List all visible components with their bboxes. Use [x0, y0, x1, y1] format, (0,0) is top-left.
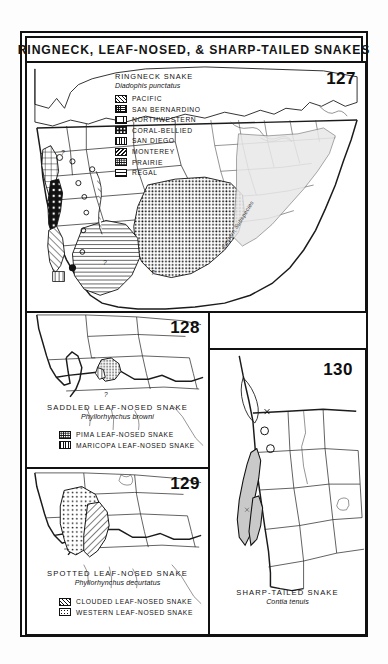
caption-sharp-tailed: SHARP-TAILED SNAKE Contia tenuis [210, 588, 365, 606]
map-panel-spotted-leaf-nosed[interactable]: 129 SPOTTED LEAF-NOSED SNAKE Phyllorhync… [25, 467, 210, 636]
swatch-pima [59, 431, 71, 439]
swatch-coral-bellied [115, 126, 127, 134]
legend-row: SAN BERNARDINO [115, 105, 201, 113]
map-panel-ringneck[interactable]: 127 RINGNECK SNAKE Diadophis punctatus P… [25, 61, 367, 313]
legend-label: WESTERN LEAF-NOSED SNAKE [76, 609, 193, 616]
annotation-query: ? [151, 269, 155, 276]
map-number-129: 129 [170, 474, 200, 494]
legend-label: MARICOPA LEAF-NOSED SNAKE [76, 442, 195, 449]
legend-label: MONTEREY [132, 148, 175, 155]
caption-scientific-name: Contia tenuis [210, 598, 365, 606]
legend-row: CLOUDED LEAF-NOSED SNAKE [59, 598, 193, 606]
legend-row: MARICOPA LEAF-NOSED SNAKE [59, 441, 195, 449]
legend-saddled-leaf-nosed: PIMA LEAF-NOSED SNAKE MARICOPA LEAF-NOSE… [59, 428, 195, 449]
caption-common-name: SHARP-TAILED SNAKE [210, 588, 365, 597]
legend-row: REGAL [115, 169, 201, 177]
legend-row: MONTEREY [115, 148, 201, 156]
legend-row: WESTERN LEAF-NOSED SNAKE [59, 608, 193, 616]
swatch-pacific [115, 95, 127, 103]
swatch-prairie [115, 158, 127, 166]
legend-label: CLOUDED LEAF-NOSED SNAKE [76, 598, 192, 605]
annotation-query: ? [61, 149, 65, 156]
caption-saddled-leaf-nosed: SADDLED LEAF-NOSED SNAKE Phyllorhynchus … [27, 403, 208, 421]
swatch-clouded [59, 598, 71, 606]
caption-scientific-name: Phyllorhynchus browni [27, 413, 208, 421]
legend-row: SAN DIEGO [115, 137, 201, 145]
map-number-127: 127 [326, 69, 356, 89]
map-panel-sharp-tailed[interactable]: 130 SHARP-TAILED SNAKE Contia tenuis [208, 348, 367, 636]
map-number-128: 128 [170, 318, 200, 338]
legend-ringneck: RINGNECK SNAKE Diadophis punctatus PACIF… [115, 72, 201, 177]
legend-label: PACIFIC [132, 95, 162, 102]
legend-row: PACIFIC [115, 95, 201, 103]
swatch-monterey [115, 148, 127, 156]
caption-common-name: SADDLED LEAF-NOSED SNAKE [27, 403, 208, 412]
annotation-query: ? [104, 391, 108, 398]
legend-scientific-name: Diadophis punctatus [115, 82, 201, 89]
legend-common-name: RINGNECK SNAKE [115, 72, 201, 81]
plate-inner: RINGNECK, LEAF-NOSED, & SHARP-TAILED SNA… [25, 36, 363, 632]
map-plate: RINGNECK, LEAF-NOSED, & SHARP-TAILED SNA… [20, 31, 368, 637]
legend-spotted-leaf-nosed: CLOUDED LEAF-NOSED SNAKE WESTERN LEAF-NO… [59, 595, 193, 616]
map-number-130: 130 [323, 360, 353, 380]
legend-label: REGAL [132, 169, 158, 176]
plate-title-bar: RINGNECK, LEAF-NOSED, & SHARP-TAILED SNA… [25, 36, 363, 63]
swatch-regal [115, 169, 127, 177]
caption-common-name: SPOTTED LEAF-NOSED SNAKE [27, 569, 208, 578]
legend-label: SAN DIEGO [132, 137, 175, 144]
map-panel-saddled-leaf-nosed[interactable]: 128 SADDLED LEAF-NOSED SNAKE Phyllorhync… [25, 311, 210, 469]
swatch-san-bernardino [115, 105, 127, 113]
caption-spotted-leaf-nosed: SPOTTED LEAF-NOSED SNAKE Phyllorhynchus … [27, 569, 208, 587]
caption-scientific-name: Phyllorhynchus decurtatus [27, 579, 208, 587]
legend-label: PIMA LEAF-NOSED SNAKE [76, 431, 174, 438]
swatch-san-diego [115, 137, 127, 145]
swatch-western [59, 608, 71, 616]
legend-row: NORTHWESTERN [115, 116, 201, 124]
swatch-maricopa [59, 441, 71, 449]
page-title: RINGNECK, LEAF-NOSED, & SHARP-TAILED SNA… [18, 43, 371, 57]
annotation-query: ? [103, 259, 107, 266]
legend-row: PRAIRIE [115, 158, 201, 166]
legend-row: CORAL-BELLIED [115, 126, 201, 134]
legend-label: PRAIRIE [132, 159, 163, 166]
legend-label: SAN BERNARDINO [132, 106, 201, 113]
legend-label: CORAL-BELLIED [132, 127, 193, 134]
legend-row: PIMA LEAF-NOSED SNAKE [59, 431, 195, 439]
swatch-northwestern [115, 116, 127, 124]
legend-label: NORTHWESTERN [132, 116, 196, 123]
